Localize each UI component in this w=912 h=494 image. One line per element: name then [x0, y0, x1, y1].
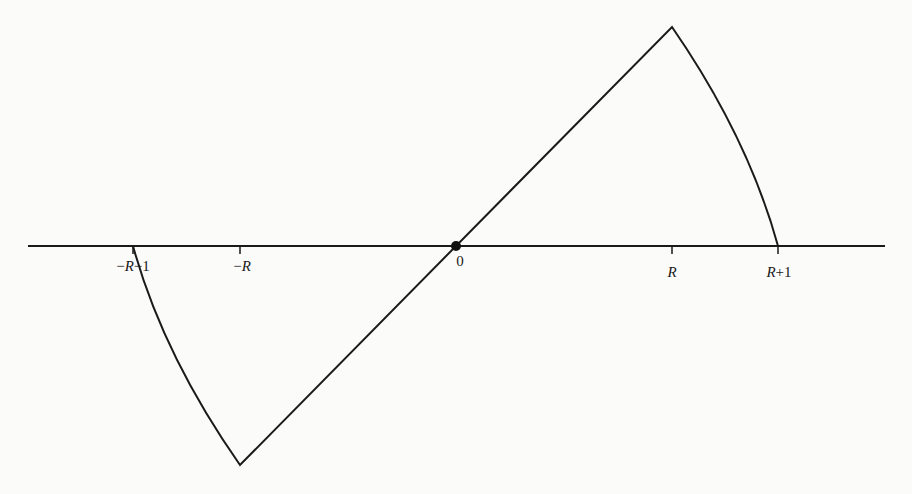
- tick-label-neg-r-minus-1: −R−1: [116, 258, 150, 275]
- function-graph-figure: −R−1−R0RR+1: [0, 0, 912, 494]
- origin-point: [451, 241, 461, 251]
- tick-label-r: R: [667, 264, 676, 281]
- tick-label-r-plus-1: R+1: [766, 264, 791, 281]
- tick-label-neg-r: −R: [233, 258, 251, 275]
- tick-label-zero: 0: [456, 253, 464, 270]
- graph-canvas: [0, 0, 912, 494]
